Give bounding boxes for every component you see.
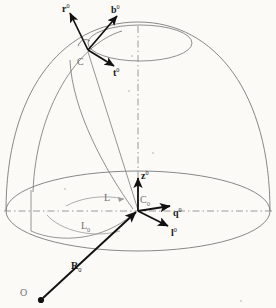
figure-canvas: r0 b0 t0 C z0 C0 q0 l0 L L0 R0 O xyxy=(0,0,276,308)
label-point-c: C xyxy=(77,57,84,67)
diagram-svg xyxy=(0,0,276,308)
vector-l0-at-c0 xyxy=(138,211,168,226)
label-r-vector: r0 xyxy=(62,3,70,14)
label-point-c0: C0 xyxy=(140,195,150,207)
meridian-arc-through-c xyxy=(70,60,133,209)
label-angle-L: L xyxy=(104,193,110,203)
label-z-vector: z0 xyxy=(141,170,149,181)
angle-arc-L xyxy=(66,197,124,206)
label-origin-O: O xyxy=(20,288,27,298)
label-t-vector: t0 xyxy=(113,67,119,78)
scan-speckle xyxy=(128,90,130,92)
label-b-vector: b0 xyxy=(111,4,120,15)
label-radius-R0: R0 xyxy=(71,261,81,273)
scan-speckle xyxy=(64,188,66,190)
scan-speckle xyxy=(131,55,133,57)
origin-point-marker xyxy=(38,297,44,303)
label-angle-L0: L0 xyxy=(81,221,90,233)
label-q-vector: q0 xyxy=(173,207,182,218)
label-l-vector: l0 xyxy=(171,227,177,238)
upper-latitude-ellipse xyxy=(88,25,192,61)
scan-speckle xyxy=(240,300,242,302)
vector-b0-at-c xyxy=(88,16,117,50)
scan-speckle xyxy=(152,152,154,154)
